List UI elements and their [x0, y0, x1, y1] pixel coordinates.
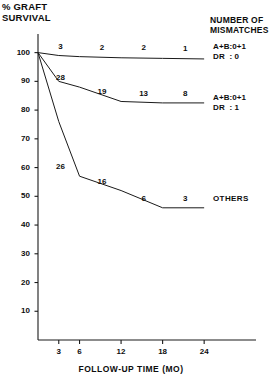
x-tick-label: 18 [154, 347, 172, 356]
y-tick-label: 60 [8, 163, 30, 172]
y-tick-label: 70 [8, 134, 30, 143]
x-tick-label: 3 [50, 347, 68, 356]
y-tick-label: 100 [8, 48, 30, 57]
data-point-label: 2 [135, 43, 153, 52]
y-tick-label: 50 [8, 191, 30, 200]
data-point-label: 1 [176, 44, 194, 53]
plot-area [0, 0, 272, 383]
y-tick-label: 90 [8, 76, 30, 85]
x-tick-label: 12 [112, 347, 130, 356]
data-point-label: 28 [52, 73, 70, 82]
data-point-label: 6 [135, 194, 153, 203]
data-point-label: 13 [135, 89, 153, 98]
y-tick-label: 20 [8, 278, 30, 287]
y-tick-label: 80 [8, 105, 30, 114]
data-point-label: 2 [93, 43, 111, 52]
y-tick-label: 30 [8, 249, 30, 258]
data-point-label: 16 [93, 177, 111, 186]
data-point-label: 19 [93, 87, 111, 96]
axis-lines [38, 34, 256, 340]
data-point-label: 8 [176, 89, 194, 98]
data-point-label: 3 [52, 42, 70, 51]
y-tick-label: 10 [8, 306, 30, 315]
graft-survival-chart: % GRAFT SURVIVAL NUMBER OF MISMATCHES A+… [0, 0, 272, 383]
series-line-0 [38, 53, 204, 59]
x-tick-label: 24 [195, 347, 213, 356]
y-tick-label: 40 [8, 220, 30, 229]
data-point-label: 3 [176, 194, 194, 203]
x-tick-label: 6 [71, 347, 89, 356]
data-point-label: 26 [52, 162, 70, 171]
